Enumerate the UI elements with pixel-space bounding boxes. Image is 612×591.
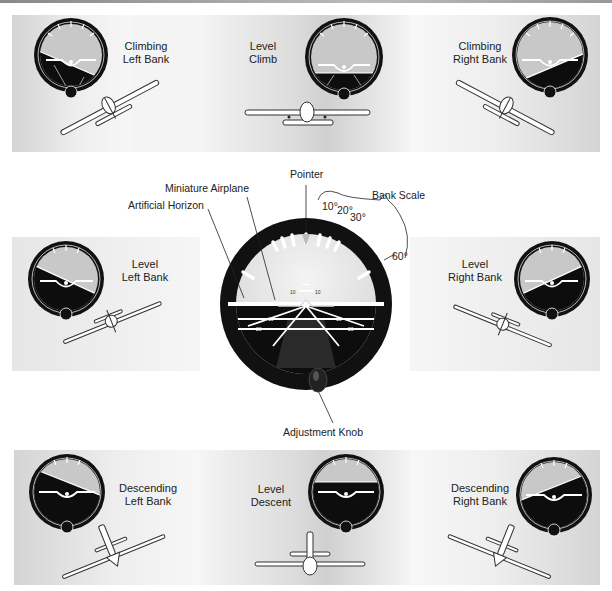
callout-miniature-airplane: Miniature Airplane [165,182,249,194]
label-line2: Left Bank [125,495,171,507]
airplane-level-descent-icon [255,530,365,580]
attitude-indicator-icon [306,452,386,534]
label-line1: Level [258,483,284,495]
label-line2: Right Bank [453,495,507,507]
callout-pointer: Pointer [290,168,323,180]
label-line1: Descending [119,482,177,494]
callout-adjustment-knob: Adjustment Knob [283,426,363,438]
bank-mark-60: 60° [392,250,408,262]
bank-mark-30: 30° [350,211,366,223]
label-line1: Descending [451,482,509,494]
bank-mark-10: 10° [322,200,338,212]
callout-bank-scale: Bank Scale [372,189,425,201]
panel-label: DescendingRight Bank [440,482,520,508]
panel-label: DescendingLeft Bank [108,482,188,508]
panel-label: LevelDescent [246,483,296,509]
airplane-descending-left-icon [58,515,168,580]
label-line2: Descent [251,496,291,508]
airplane-descending-right-icon [445,515,555,580]
callout-artificial-horizon: Artificial Horizon [128,199,204,211]
